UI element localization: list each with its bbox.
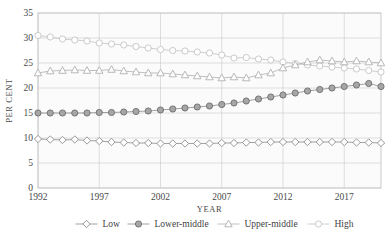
legend-item-label: Low [103,219,121,229]
y-tick-label: 15 [24,108,34,118]
data-point-open-circle [96,40,102,46]
y-axis-title: PER CENT [4,78,14,123]
x-tick-label: 2002 [151,192,170,202]
line-chart-canvas: 05101520253035 199219972002200720122017 … [0,0,392,236]
data-point-filled-circle [317,86,323,92]
data-point-open-circle [315,221,321,227]
legend-item-label: Upper-middle [245,219,298,229]
data-point-filled-circle [353,82,359,88]
data-point-filled-circle [378,83,384,89]
data-point-filled-circle [304,88,310,94]
legend-item-high[interactable]: High [308,219,354,229]
data-point-filled-circle [108,109,114,115]
data-point-filled-circle [133,108,139,114]
data-point-open-diamond [83,220,90,227]
data-point-filled-circle [96,109,102,115]
data-point-open-circle [341,65,347,71]
x-tick-label: 2012 [274,192,293,202]
data-point-filled-circle [231,100,237,106]
data-point-filled-circle [280,92,286,98]
data-point-filled-circle [366,80,372,86]
data-point-filled-circle [135,221,141,227]
data-point-open-circle [182,48,188,54]
data-point-open-circle [317,63,323,69]
data-point-open-circle [170,47,176,53]
data-point-open-circle [84,38,90,44]
data-point-open-circle [47,34,53,40]
data-point-filled-circle [157,107,163,113]
data-point-open-circle [268,57,274,63]
data-point-filled-circle [268,94,274,100]
data-point-filled-circle [47,110,53,116]
y-tick-label: 25 [24,58,34,68]
x-tick-label: 2007 [212,192,231,202]
data-point-filled-circle [329,85,335,91]
data-point-filled-circle [292,90,298,96]
x-axis-tick-labels: 199219972002200720122017 [29,192,355,202]
legend-item-lower-middle[interactable]: Lower-middle [128,219,209,229]
data-point-open-circle [157,46,163,52]
data-point-open-circle [219,52,225,58]
x-axis-title: YEAR [197,204,223,214]
data-point-filled-circle [72,110,78,116]
data-point-open-circle [35,32,41,38]
legend-item-label: High [335,219,354,229]
data-point-filled-circle [206,103,212,109]
y-axis-tick-labels: 05101520253035 [24,8,34,193]
data-point-open-circle [329,64,335,70]
data-point-filled-circle [194,104,200,110]
data-point-open-circle [206,50,212,56]
y-tick-label: 35 [24,8,34,18]
data-point-filled-circle [84,110,90,116]
data-point-open-circle [255,56,261,62]
data-point-open-circle [231,55,237,61]
legend-item-upper-middle[interactable]: Upper-middle [218,219,298,229]
data-point-open-circle [108,41,114,47]
data-point-open-circle [72,37,78,43]
x-tick-label: 1997 [90,192,109,202]
legend-item-label: Lower-middle [155,219,209,229]
data-point-open-circle [121,42,127,48]
y-tick-label: 20 [24,83,34,93]
data-point-filled-circle [145,108,151,114]
chart-figure: 05101520253035 199219972002200720122017 … [0,0,392,236]
data-point-filled-circle [219,101,225,107]
x-tick-label: 1992 [29,192,48,202]
data-point-open-circle [194,49,200,55]
data-point-filled-circle [35,110,41,116]
data-point-open-circle [353,66,359,72]
y-tick-label: 10 [24,133,34,143]
y-tick-label: 5 [28,158,33,168]
data-point-open-circle [145,45,151,51]
data-point-filled-circle [59,110,65,116]
data-point-open-circle [133,43,139,49]
data-point-open-circle [366,67,372,73]
data-point-open-circle [378,69,384,75]
data-point-filled-circle [121,109,127,115]
x-tick-label: 2017 [335,192,354,202]
legend-item-low[interactable]: Low [76,219,121,229]
data-point-open-triangle [225,220,232,227]
data-point-open-circle [59,36,65,42]
data-point-open-circle [243,54,249,60]
data-point-filled-circle [182,105,188,111]
data-point-filled-circle [341,83,347,89]
data-point-filled-circle [255,96,261,102]
data-point-filled-circle [243,98,249,104]
chart-legend[interactable]: LowLower-middleUpper-middleHigh [76,219,354,229]
y-tick-label: 30 [24,33,34,43]
data-point-filled-circle [170,106,176,112]
